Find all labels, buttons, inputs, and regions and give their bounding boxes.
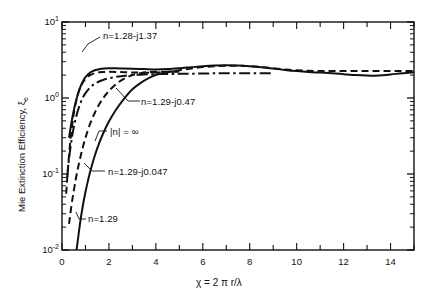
y-tick-label-10e-2: 10-2 <box>29 243 59 255</box>
curve-1 <box>67 73 273 177</box>
y-axis-title: Mie Extinction Efficiency, ξe <box>16 97 29 212</box>
x-tick-label-14: 14 <box>377 256 405 267</box>
plot-canvas <box>0 0 431 299</box>
x-tick-label-8: 8 <box>236 256 264 267</box>
annotation-n129-j047: n=1.29-j0.47 <box>141 97 195 107</box>
x-tick-label-6: 6 <box>189 256 217 267</box>
annotation-n128-j137: n=1.28-j1.37 <box>103 31 157 41</box>
x-axis-title: χ = 2 π r/λ <box>196 277 242 288</box>
x-tick-label-10: 10 <box>283 256 311 267</box>
data-curves <box>66 65 414 250</box>
y-tick-label-10e-1: 10-1 <box>29 167 59 179</box>
leader-line-0 <box>82 37 100 52</box>
annotation-n-infinity: |n| = ∞ <box>110 127 139 137</box>
x-tick-label-4: 4 <box>142 256 170 267</box>
x-tick-label-0: 0 <box>48 256 76 267</box>
x-tick-label-2: 2 <box>95 256 123 267</box>
x-tick-label-12: 12 <box>330 256 358 267</box>
leader-line-3 <box>84 163 105 171</box>
annotation-n129-j0047: n=1.29-j0.047 <box>108 167 168 177</box>
y-tick-label-10e1: 101 <box>29 15 59 27</box>
y-tick-label-10e0: 100 <box>29 91 59 103</box>
annotation-n129: n=1.29 <box>88 214 118 224</box>
mie-extinction-efficiency-figure: 101 100 10-1 10-2 02468101214 Mie Extinc… <box>0 0 431 299</box>
